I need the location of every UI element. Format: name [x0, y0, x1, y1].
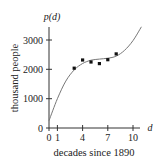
data-point [89, 60, 92, 63]
data-points [73, 52, 118, 69]
data-point [115, 52, 118, 55]
model-curve [49, 27, 141, 121]
data-point [98, 62, 101, 65]
x-tick-label-4: 4 [80, 132, 85, 143]
y-tick-label-1000: 1000 [23, 93, 43, 104]
x-tick-label-10: 10 [128, 132, 138, 143]
data-point [73, 67, 76, 70]
chart: 3000 2000 1000 0 0 1 4 7 10 p(d) d decad… [0, 0, 162, 165]
y-tick-label-0: 0 [38, 123, 43, 134]
y-tick-label-3000: 3000 [23, 35, 43, 46]
x-axis-variable: d [148, 122, 154, 133]
x-axis-title: decades since 1890 [53, 147, 134, 158]
y-axis-variable: p(d) [43, 11, 61, 23]
x-tick-label-1: 1 [55, 132, 60, 143]
x-tick-label-7: 7 [105, 132, 110, 143]
data-point [106, 58, 109, 61]
y-axis-title: thousand people [9, 43, 20, 112]
data-point [81, 58, 84, 61]
y-tick-label-2000: 2000 [23, 64, 43, 75]
x-tick-label-0: 0 [47, 132, 52, 143]
